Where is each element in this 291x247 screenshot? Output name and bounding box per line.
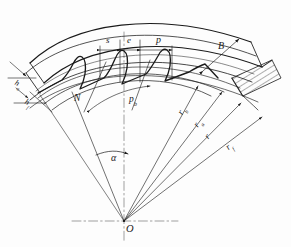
gear-drawing-canvas xyxy=(0,0,291,247)
gear-geometry-figure: s e p pb B ha hf rb ra r rf α N O xyxy=(0,0,291,247)
label-face-width: B xyxy=(218,41,224,51)
label-center-o: O xyxy=(126,224,134,235)
pb-ext-left xyxy=(84,62,106,112)
radial-line-ra xyxy=(124,92,222,221)
label-tooth-thickness: s xyxy=(106,36,110,45)
radial-line-r xyxy=(124,103,241,221)
rim-left-end-face xyxy=(30,63,44,83)
reference-arc-upper xyxy=(36,55,254,91)
label-pressure-angle: α xyxy=(111,153,116,163)
label-point-n: N xyxy=(74,94,80,104)
label-base-pitch: pb xyxy=(129,95,137,107)
radial-line-rf xyxy=(124,117,262,221)
hf-ext-line xyxy=(30,92,52,112)
ha-leader xyxy=(10,62,26,76)
label-pitch: p xyxy=(156,35,161,45)
rim-left-end-face-lower xyxy=(26,73,40,93)
label-space-width: e xyxy=(127,36,131,45)
center-point-O xyxy=(123,220,125,222)
body-right-edge-a xyxy=(243,96,258,110)
radial-lines xyxy=(40,86,262,221)
pb-dim-arc xyxy=(90,86,150,110)
